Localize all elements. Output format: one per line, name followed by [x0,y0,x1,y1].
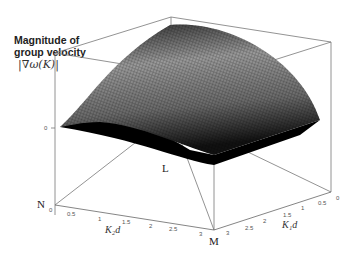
svg-text:0: 0 [49,207,53,213]
svg-text:1.5: 1.5 [283,212,292,218]
svg-text:2.5: 2.5 [245,225,254,231]
svg-text:0.5: 0.5 [318,200,327,206]
z-tick-0: 0 [44,125,48,131]
corner-label-n: N [37,198,45,210]
svg-text:0.5: 0.5 [67,211,76,217]
svg-text:1.5: 1.5 [122,219,131,225]
svg-text:1: 1 [98,216,102,222]
x-axis-label: K₂d [104,224,121,235]
svg-text:2: 2 [149,223,153,229]
corner-label-l: L [162,162,169,174]
svg-text:2: 2 [263,218,267,224]
svg-text:2.5: 2.5 [169,226,178,232]
svg-text:0: 0 [336,195,340,201]
corner-label-m: M [209,235,219,247]
y-axis-label: K₁d [281,219,298,230]
svg-text:3: 3 [226,230,230,236]
svg-text:3: 3 [199,231,203,237]
svg-text:1: 1 [301,205,305,211]
surface-plot: 0 0 0.5 1 1.5 2 2.5 3 K₂d 0 0.5 1 1.5 2 … [0,0,355,259]
x-axis-ticks: 0 0.5 1 1.5 2 2.5 3 [49,207,203,237]
